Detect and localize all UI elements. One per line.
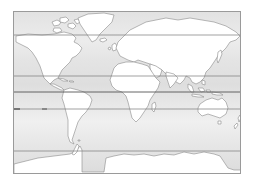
australia — [198, 98, 228, 118]
canadian-arctic-islands — [52, 17, 80, 33]
pacific-mark — [14, 108, 20, 110]
world-map — [13, 11, 241, 174]
hispaniola — [69, 81, 74, 82]
antarctica — [14, 146, 241, 174]
pacific-mark — [42, 108, 47, 110]
greenland — [78, 13, 114, 42]
cuba — [58, 78, 68, 81]
central-america — [50, 84, 64, 90]
british-isles — [108, 43, 117, 51]
map-canvas — [14, 12, 241, 174]
tasmania — [218, 121, 221, 124]
falkland-islands — [78, 140, 80, 141]
new-zealand — [234, 115, 241, 129]
south-america — [62, 88, 92, 144]
japan — [217, 50, 222, 63]
iceland — [100, 38, 107, 42]
madagascar — [152, 102, 156, 112]
